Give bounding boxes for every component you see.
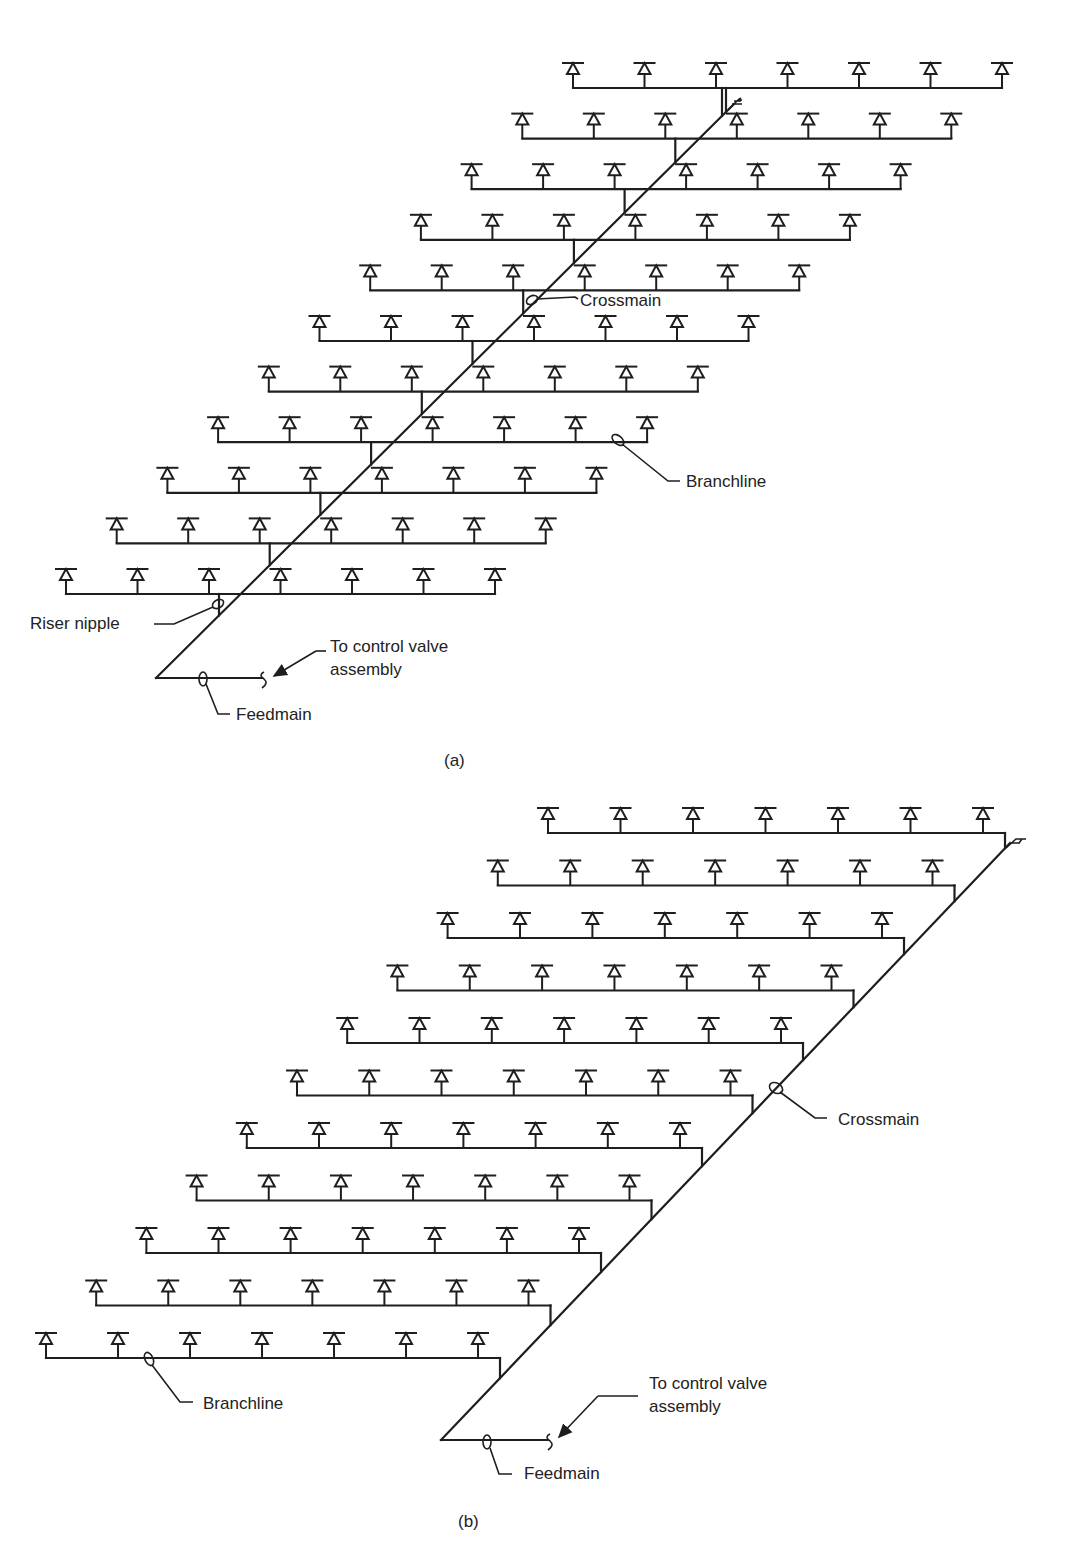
sprinkler-head-icon (85, 1281, 107, 1306)
sprinkler-head-icon (799, 913, 821, 938)
sprinkler-head-icon (502, 265, 524, 290)
sprinkler-head-icon (386, 966, 408, 991)
sprinkler-head-icon (848, 63, 870, 88)
sprinkler-head-icon (359, 265, 381, 290)
sprinkler-head-icon (565, 417, 587, 442)
sprinkler-head-icon (625, 1018, 647, 1043)
sprinkler-head-icon (821, 966, 843, 991)
sprinkler-head-icon (431, 265, 453, 290)
sprinkler-head-icon (459, 966, 481, 991)
branchline-leader-b (152, 1365, 193, 1402)
crossmain-leader-b (780, 1092, 827, 1118)
sprinkler-head-icon (537, 808, 559, 833)
sprinkler-head-icon (392, 518, 414, 543)
sprinkler-head-icon (424, 1228, 446, 1253)
label-control-valve-line1-a: To control valve (330, 637, 448, 656)
sprinkler-head-icon (467, 1333, 489, 1358)
pipe-break-a (261, 672, 266, 688)
sprinkler-head-icon (410, 215, 432, 240)
crossmain-callout-loop-a (525, 294, 539, 307)
sprinkler-head-icon (682, 808, 704, 833)
sprinkler-head-icon (553, 1018, 575, 1043)
panel-b-end-feed: Crossmain Branchline Feedmain To control… (35, 808, 1026, 1531)
sprinkler-head-icon (647, 1071, 669, 1096)
sprinkler-head-icon (309, 316, 331, 341)
sprinkler-head-icon (484, 569, 506, 594)
sprinkler-head-icon (738, 316, 760, 341)
sprinkler-head-icon (568, 1228, 590, 1253)
sprinkler-head-icon (251, 1333, 273, 1358)
sprinkler-head-icon (777, 861, 799, 886)
sprinkler-head-icon (676, 966, 698, 991)
branchline-row (386, 966, 853, 1008)
branchline-row (286, 1071, 753, 1114)
sprinkler-head-icon (532, 164, 554, 189)
sprinkler-head-icon (559, 861, 581, 886)
sprinkler-head-icon (487, 861, 509, 886)
sprinkler-head-icon (229, 1281, 251, 1306)
branchline-row (309, 316, 760, 364)
branchline-row (410, 215, 861, 263)
sprinkler-head-icon (720, 1071, 742, 1096)
sprinkler-head-icon (553, 215, 575, 240)
label-control-valve-line2-b: assembly (649, 1397, 721, 1416)
sprinkler-head-icon (991, 63, 1013, 88)
sprinkler-head-icon (705, 63, 727, 88)
sprinkler-head-icon (481, 1018, 503, 1043)
control-valve-arrow-a (274, 651, 316, 676)
sprinkler-head-icon (920, 63, 942, 88)
branchlines-a (55, 63, 1013, 615)
sprinkler-head-icon (669, 1123, 691, 1148)
sprinkler-head-icon (452, 1123, 474, 1148)
sprinkler-head-icon (518, 1281, 540, 1306)
sprinkler-head-icon (839, 215, 861, 240)
sprinkler-head-icon (336, 1018, 358, 1043)
branchline-row (186, 1176, 652, 1220)
sprinkler-head-icon (610, 808, 632, 833)
label-crossmain-a: Crossmain (580, 291, 661, 310)
caption-b: (b) (458, 1512, 479, 1531)
sprinkler-head-icon (546, 1176, 568, 1201)
feedmain-callout-loop-b (483, 1435, 491, 1449)
sprinkler-head-icon (179, 1333, 201, 1358)
sprinkler-head-icon (481, 215, 503, 240)
sprinkler-head-icon (463, 518, 485, 543)
sprinkler-head-icon (395, 1333, 417, 1358)
sprinkler-head-icon (634, 63, 656, 88)
label-riser-nipple-a: Riser nipple (30, 614, 120, 633)
branchline-row (55, 569, 506, 615)
sprinkler-head-icon (358, 1071, 380, 1096)
sprinkler-head-icon (849, 861, 871, 886)
sprinkler-head-icon (666, 316, 688, 341)
sprinkler-head-icon (770, 1018, 792, 1043)
sprinkler-head-icon (474, 1176, 496, 1201)
sprinkler-head-icon (514, 468, 536, 493)
sprinkler-head-icon (258, 1176, 280, 1201)
sprinkler-head-icon (330, 1176, 352, 1201)
branchline-row (562, 63, 1013, 112)
sprinkler-head-icon (748, 966, 770, 991)
sprinkler-head-icon (452, 316, 474, 341)
sprinkler-head-icon (371, 468, 393, 493)
sprinkler-head-icon (409, 1018, 431, 1043)
sprinkler-head-icon (157, 1281, 179, 1306)
riser-leader-a (154, 607, 213, 624)
sprinkler-head-icon (636, 417, 658, 442)
sprinkler-head-icon (413, 569, 435, 594)
sprinkler-head-icon (380, 1123, 402, 1148)
sprinkler-head-icon (624, 215, 646, 240)
sprinkler-head-icon (562, 63, 584, 88)
branchline-row (258, 367, 709, 414)
sprinkler-head-icon (228, 468, 250, 493)
sprinkler-head-icon (198, 569, 220, 594)
control-valve-arrow-b (559, 1396, 598, 1437)
sprinkler-head-icon (258, 367, 280, 392)
sprinkler-head-icon (535, 518, 557, 543)
pipe-break-b (547, 1434, 552, 1450)
sprinkler-head-icon (871, 913, 893, 938)
sprinkler-head-icon (437, 913, 459, 938)
sprinkler-head-icon (696, 215, 718, 240)
sprinkler-head-icon (788, 265, 810, 290)
sprinkler-head-icon (301, 1281, 323, 1306)
branchline-row (156, 468, 607, 515)
